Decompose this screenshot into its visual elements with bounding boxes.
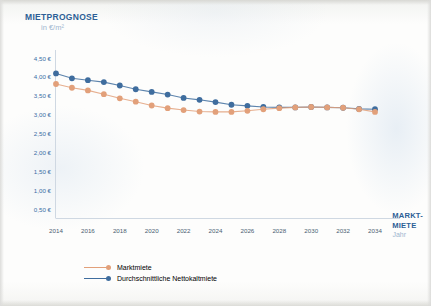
x-tick-label: 2032 [336, 227, 350, 234]
y-tick-label: 4,00 € [34, 73, 52, 80]
x-tick-label: 2022 [177, 227, 191, 234]
data-point[interactable] [85, 77, 91, 83]
data-point[interactable] [260, 106, 266, 112]
x-tick-label: 2030 [304, 227, 318, 234]
axis-right-label-line1: MARKT- [392, 211, 423, 221]
data-point[interactable] [101, 79, 107, 85]
data-point[interactable] [276, 105, 282, 111]
data-point[interactable] [53, 81, 59, 87]
data-point[interactable] [101, 91, 107, 97]
y-tick-label: 2,00 € [34, 149, 52, 156]
data-point[interactable] [181, 107, 187, 113]
y-tick-label: 1,00 € [34, 187, 52, 194]
x-axis-ticks: 2014201620182020202220242026202820302032… [49, 227, 382, 234]
data-point[interactable] [197, 109, 203, 115]
data-point[interactable] [229, 109, 235, 115]
axis-right-label-line2: MIETE [392, 221, 423, 231]
data-point[interactable] [149, 103, 155, 109]
legend-label: Marktmiete [117, 264, 152, 271]
data-point[interactable] [69, 75, 75, 81]
axis-right-sublabel: Jahr [392, 231, 406, 238]
y-tick-label: 0,50 € [34, 206, 52, 213]
legend-item-marktmiete[interactable]: Marktmiete [84, 262, 217, 273]
data-point[interactable] [213, 109, 219, 115]
data-point[interactable] [356, 106, 362, 112]
x-tick-label: 2018 [113, 227, 127, 234]
data-point[interactable] [229, 102, 235, 108]
data-point[interactable] [324, 104, 330, 110]
data-point[interactable] [85, 88, 91, 94]
y-tick-label: 4,50 € [34, 55, 52, 62]
data-point[interactable] [181, 95, 187, 101]
legend-item-nettokaltmiete[interactable]: Durchschnittliche Nettokaltmiete [84, 273, 217, 284]
data-point[interactable] [340, 105, 346, 111]
data-point[interactable] [165, 92, 171, 98]
x-tick-label: 2014 [49, 227, 63, 234]
data-point[interactable] [117, 95, 123, 101]
data-point[interactable] [197, 97, 203, 103]
y-tick-label: 3,50 € [34, 92, 52, 99]
legend-label: Durchschnittliche Nettokaltmiete [117, 275, 217, 282]
x-tick-label: 2034 [368, 227, 382, 234]
x-tick-label: 2016 [81, 227, 95, 234]
x-tick-label: 2028 [272, 227, 286, 234]
x-tick-label: 2024 [209, 227, 223, 234]
data-point[interactable] [213, 99, 219, 105]
data-point[interactable] [308, 104, 314, 110]
chart-page: MIETPROGNOSE in €/m² 4,50 €4,00 €3,50 €3… [0, 0, 431, 306]
chart-legend: Marktmiete Durchschnittliche Nettokaltmi… [84, 262, 217, 284]
y-tick-label: 2,50 € [34, 130, 52, 137]
data-point[interactable] [69, 85, 75, 91]
data-point[interactable] [165, 105, 171, 111]
legend-dot-icon [106, 276, 111, 281]
data-point[interactable] [372, 109, 378, 115]
x-tick-label: 2020 [145, 227, 159, 234]
y-tick-label: 1,50 € [34, 168, 52, 175]
data-point[interactable] [149, 89, 155, 95]
data-point[interactable] [133, 99, 139, 105]
series-group [53, 71, 378, 115]
legend-dot-icon [106, 265, 111, 270]
x-tick-label: 2026 [241, 227, 255, 234]
data-point[interactable] [117, 83, 123, 89]
data-point[interactable] [292, 104, 298, 110]
y-tick-label: 3,00 € [34, 111, 52, 118]
chart-plot: 4,50 €4,00 €3,50 €3,00 €2,50 €2,00 €1,50… [0, 0, 431, 306]
axis-right-label: MARKT- MIETE [392, 211, 423, 230]
data-point[interactable] [245, 108, 251, 114]
y-axis-ticks: 4,50 €4,00 €3,50 €3,00 €2,50 €2,00 €1,50… [34, 55, 52, 213]
data-point[interactable] [133, 86, 139, 92]
data-point[interactable] [53, 71, 59, 77]
